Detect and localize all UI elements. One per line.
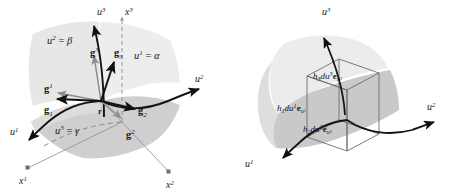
- u1-surface-label: u1 = α: [134, 49, 160, 61]
- origin-point: [99, 99, 102, 102]
- curvilinear-coordinates-figure: u2 = β u1 = α u3 = γ u3 x3 u2 u1 x1 x2 g…: [0, 0, 453, 196]
- x2-axis-endpoint: [167, 170, 171, 174]
- x1-axis-endpoint: [26, 166, 30, 170]
- u3-surface-label: u3 = γ: [55, 124, 80, 136]
- position-vector-label: r: [98, 106, 102, 116]
- u2-surface-label: u2 = β: [47, 34, 73, 46]
